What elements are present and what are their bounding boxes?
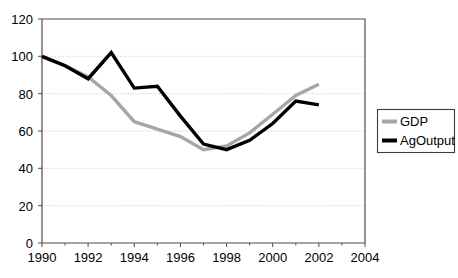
y-axis-tick-label: 100 [11, 49, 33, 64]
x-axis-tick-label: 1990 [28, 250, 57, 265]
line-chart: 120 100 80 60 40 20 0 1990 1992 1994 199… [0, 0, 458, 278]
x-axis-tick-label: 2002 [304, 250, 333, 265]
x-axis-tick-label: 1998 [212, 250, 241, 265]
series-line-gdp [42, 56, 319, 149]
legend: GDP AgOutput [378, 110, 456, 153]
x-axis-labels: 1990 1992 1994 1996 1998 2000 2002 2004 [28, 250, 380, 265]
x-axis-tick-label: 1994 [120, 250, 149, 265]
y-axis-labels: 120 100 80 60 40 20 0 [11, 12, 33, 251]
y-axis-tick-label: 120 [11, 12, 33, 27]
y-axis-tick-label: 0 [26, 236, 33, 251]
x-axis-tick-label: 2004 [351, 250, 380, 265]
y-axis-tick-label: 80 [19, 87, 33, 102]
x-axis-tick-label: 1996 [166, 250, 195, 265]
y-axis-tick-label: 40 [19, 161, 33, 176]
y-axis-tick-label: 60 [19, 124, 33, 139]
legend-label-agoutput: AgOutput [400, 133, 455, 148]
y-axis-tick-label: 20 [19, 199, 33, 214]
chart-container: 120 100 80 60 40 20 0 1990 1992 1994 199… [0, 0, 458, 278]
legend-label-gdp: GDP [400, 114, 428, 129]
x-axis-tick-label: 2000 [258, 250, 287, 265]
data-series [42, 53, 319, 150]
x-axis-tick-label: 1992 [74, 250, 103, 265]
